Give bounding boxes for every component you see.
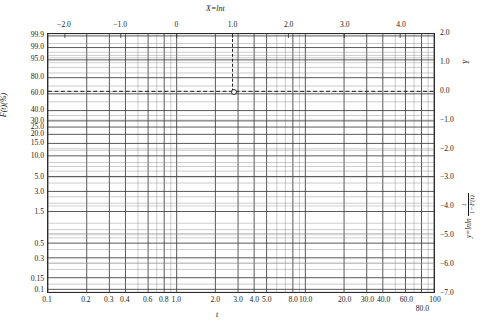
top-tick-1: −1.0 [113, 21, 127, 29]
right-tick-6: −4.0 [440, 203, 454, 211]
left-tick-0: 99.9 [6, 31, 44, 39]
top-tick-2: 0 [174, 21, 178, 29]
bottom-tick-3: 0.4 [120, 296, 130, 304]
top-tick-5: 3.0 [340, 21, 350, 29]
left-tick-10: 10.0 [6, 152, 44, 160]
bottom-tick-14: 30.0 [361, 296, 374, 304]
formula-fraction: 1 1−F(t) [461, 193, 477, 216]
top-tick-3: 1.0 [228, 21, 238, 29]
left-tick-2: 95.0 [6, 55, 44, 63]
formula-prefix: y=lnln [464, 218, 473, 238]
left-tick-12: 3.0 [6, 188, 44, 196]
bottom-tick-5: 0.8 [159, 296, 169, 304]
bottom-tick-7: 2.0 [211, 296, 221, 304]
bottom-tick-18: 100 [429, 296, 440, 304]
top-tick-4: 2.0 [284, 21, 294, 29]
left-tick-1: 99.0 [6, 43, 44, 51]
right-tick-0: 2.0 [440, 29, 450, 37]
bottom-tick-17: 80.0 [416, 305, 429, 313]
bottom-tick-6: 1.0 [172, 296, 182, 304]
left-tick-16: 0.15 [6, 275, 44, 283]
bottom-axis-title: t [216, 310, 218, 319]
bottom-tick-12: 10.0 [299, 296, 312, 304]
left-tick-15: 0.3 [6, 255, 44, 263]
bottom-tick-11: 8.0 [288, 296, 298, 304]
right-tick-2: 0.0 [440, 87, 450, 95]
bottom-tick-4: 0.6 [143, 296, 153, 304]
bottom-tick-13: 20.0 [338, 296, 351, 304]
right-tick-4: −2.0 [440, 145, 454, 153]
right-tick-5: −3.0 [440, 174, 454, 182]
left-tick-9: 15.0 [6, 139, 44, 147]
left-tick-13: 1.5 [6, 208, 44, 216]
right-tick-9: −7.0 [440, 289, 454, 297]
left-tick-14: 0.5 [6, 240, 44, 248]
bottom-tick-8: 3.0 [233, 296, 243, 304]
left-tick-3: 80.0 [6, 73, 44, 81]
right-axis-title: Y [462, 50, 471, 74]
left-tick-11: 5.0 [6, 173, 44, 181]
bottom-tick-16: 60.0 [400, 296, 413, 304]
bottom-tick-10: 5.0 [262, 296, 272, 304]
left-tick-17: 0.1 [6, 287, 44, 295]
data-point-marker[interactable] [231, 89, 237, 95]
right-tick-1: 1.0 [440, 58, 450, 66]
grid-lines [48, 34, 434, 292]
top-tick-6: 4.0 [396, 21, 406, 29]
right-tick-7: −5.0 [440, 231, 454, 239]
bottom-tick-9: 4.0 [249, 296, 259, 304]
top-tick-0: −2.0 [57, 21, 71, 29]
left-tick-5: 40.0 [6, 106, 44, 114]
bottom-tick-1: 0.2 [81, 296, 91, 304]
plot-area [47, 33, 435, 293]
left-tick-8: 20.0 [6, 130, 44, 138]
formula-denominator: 1−F(t) [469, 193, 476, 216]
formula-numerator: 1 [461, 201, 468, 209]
bottom-tick-0: 0.1 [42, 296, 52, 304]
weibull-probability-chart: X=lnt t F(t)(%) Y y=lnln 1 1−F(t) 99.999… [0, 0, 493, 327]
top-axis-title: X=lnt [206, 4, 225, 13]
right-tick-3: −1.0 [440, 116, 454, 124]
right-tick-8: −6.0 [440, 260, 454, 268]
left-tick-4: 60.0 [6, 90, 44, 98]
right-axis-formula: y=lnln 1 1−F(t) [461, 193, 477, 238]
bottom-tick-15: 40.0 [377, 296, 390, 304]
bottom-tick-2: 0.3 [104, 296, 114, 304]
